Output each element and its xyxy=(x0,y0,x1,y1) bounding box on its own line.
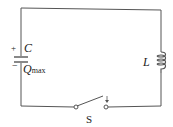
switch-arrow-head xyxy=(105,100,109,103)
capacitor-label: C xyxy=(24,41,32,56)
charge-subscript: max xyxy=(32,66,46,75)
minus-sign: − xyxy=(12,60,18,71)
switch-blade xyxy=(77,96,103,106)
top-wire xyxy=(21,8,161,56)
inductor-coil xyxy=(157,52,165,73)
charge-label: Qmax xyxy=(23,62,45,77)
lc-circuit-diagram: + − C Qmax L S xyxy=(0,0,173,127)
switch-right-terminal xyxy=(104,105,108,109)
bottom-left-wire xyxy=(21,106,74,107)
switch-label: S xyxy=(86,113,92,125)
bottom-right-wire xyxy=(108,106,161,107)
plus-sign: + xyxy=(11,43,16,53)
inductor-label: L xyxy=(143,55,150,70)
